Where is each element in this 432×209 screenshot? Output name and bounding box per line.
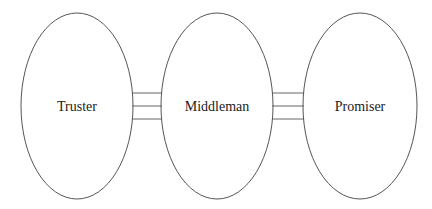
middleman-label: Middleman bbox=[185, 99, 250, 114]
truster-label: Truster bbox=[57, 99, 97, 114]
trust-chain-diagram: Truster Middleman Promiser bbox=[0, 0, 432, 209]
node-middleman: Middleman bbox=[161, 13, 273, 199]
connector-middleman-promiser bbox=[272, 93, 304, 119]
promiser-label: Promiser bbox=[335, 99, 386, 114]
node-promiser: Promiser bbox=[303, 13, 417, 199]
connector-truster-middleman bbox=[132, 93, 162, 119]
node-truster: Truster bbox=[21, 13, 133, 199]
